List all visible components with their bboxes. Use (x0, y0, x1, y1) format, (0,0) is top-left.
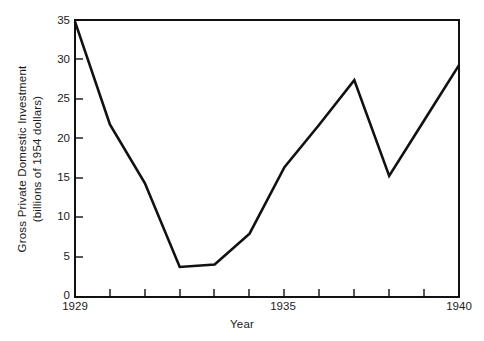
y-axis-ticks (75, 20, 83, 297)
data-series-line (75, 22, 459, 267)
chart-figure: Gross Private Domestic Investment (billi… (0, 0, 484, 341)
page-text-fragment (0, 333, 484, 341)
x-axis-ticks (75, 289, 459, 297)
plot-area (0, 0, 484, 341)
